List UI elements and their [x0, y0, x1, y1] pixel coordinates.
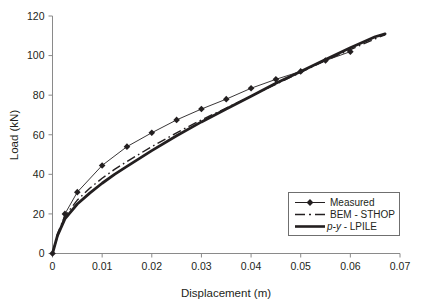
legend-label-bem-sthop: BEM - STHOP	[330, 209, 395, 220]
legend-label-py-italic: p-y	[326, 221, 342, 232]
chart-figure: 020406080100120 00.010.020.030.040.050.0…	[0, 0, 426, 307]
x-tick-label: 0.05	[290, 260, 311, 272]
x-axis-title: Displacement (m)	[181, 287, 271, 299]
chart-legend: Measured BEM - STHOP p-y - LPILE	[289, 193, 400, 236]
y-tick-label: 0	[39, 247, 45, 259]
x-tick-label: 0.06	[340, 260, 361, 272]
y-tick-label: 40	[33, 168, 45, 180]
x-tick-label: 0.02	[142, 260, 163, 272]
legend-label-py-lpile: p-y - LPILE	[326, 221, 377, 232]
chart-background	[0, 0, 426, 307]
y-axis-title: Load (kN)	[8, 110, 20, 161]
x-tick-label: 0.01	[92, 260, 113, 272]
legend-label-lpile-suffix: - LPILE	[341, 221, 377, 232]
y-tick-label: 120	[27, 10, 45, 22]
x-tick-label: 0.07	[390, 260, 411, 272]
load-displacement-chart: 020406080100120 00.010.020.030.040.050.0…	[0, 0, 426, 307]
y-tick-label: 100	[27, 49, 45, 61]
x-tick-label: 0.04	[241, 260, 262, 272]
x-tick-label: 0.03	[191, 260, 212, 272]
y-tick-label: 80	[33, 89, 45, 101]
legend-label-measured: Measured	[330, 197, 374, 208]
y-tick-label: 60	[33, 129, 45, 141]
y-tick-label: 20	[33, 208, 45, 220]
x-tick-label: 0	[50, 260, 56, 272]
